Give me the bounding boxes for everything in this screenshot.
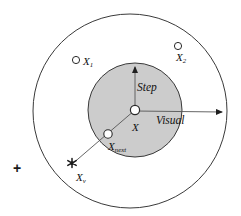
label-x-next-base: X	[108, 140, 115, 152]
label-x1-subscript: 1	[90, 61, 93, 68]
label-x2: X2	[176, 52, 186, 65]
label-center-x: X	[132, 122, 139, 133]
label-visual: Visual	[156, 115, 185, 127]
node-x1	[72, 56, 79, 63]
label-x2-subscript: 2	[183, 57, 186, 64]
node-x-v-star	[68, 159, 76, 168]
label-x-next-subscript: next	[115, 146, 126, 153]
node-x2	[174, 42, 181, 49]
label-x1-base: X	[83, 55, 90, 67]
label-x2-base: X	[176, 51, 183, 63]
label-step: Step	[137, 82, 157, 94]
label-x-v-subscript: v	[83, 177, 86, 184]
label-x-v: Xv	[76, 172, 86, 185]
diagram-canvas	[0, 0, 241, 216]
node-x-next	[104, 130, 112, 138]
plus-mark: +	[11, 162, 23, 174]
label-x-v-base: X	[76, 171, 83, 183]
node-center-x	[130, 105, 139, 114]
figure-container: X1 X2 Step Visual X Xnext Xv +	[0, 0, 241, 216]
label-x-next: Xnext	[108, 141, 126, 154]
label-x1: X1	[83, 56, 93, 69]
